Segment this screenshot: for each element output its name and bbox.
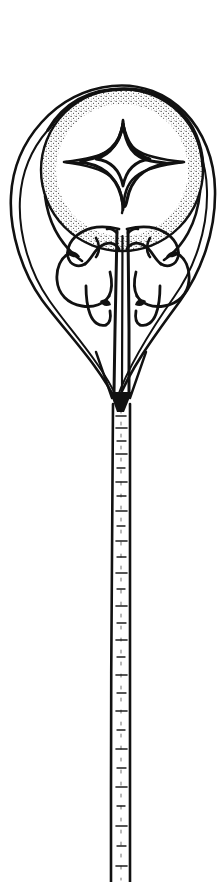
figure-root — [0, 0, 224, 882]
pin-illustration — [0, 0, 224, 882]
